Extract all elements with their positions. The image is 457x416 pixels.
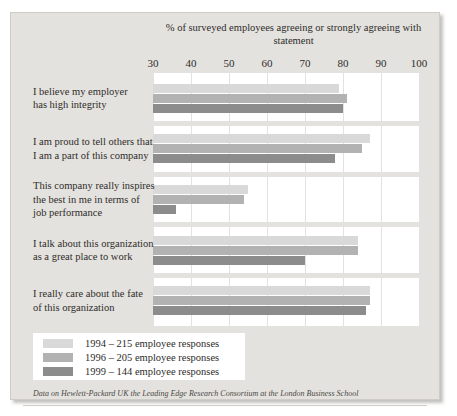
x-tick-label: 50 [224, 57, 235, 69]
category-label-line: as a great place to work [33, 250, 155, 264]
chart-title: % of surveyed employees agreeing or stro… [151, 21, 436, 47]
bar [153, 84, 339, 93]
bar [153, 104, 343, 113]
category-label: I really care about the fateof this orga… [33, 287, 155, 314]
x-tick-label: 100 [411, 57, 428, 69]
bar [153, 185, 248, 194]
category-label: This company really inspiresthe best in … [33, 179, 155, 220]
category-label: I believe my employerhas high integrity [33, 85, 155, 112]
legend-label: 1996 – 205 employee responses [85, 352, 219, 363]
legend-swatch [43, 367, 73, 376]
plot-area [153, 73, 419, 326]
footnote-divider [23, 405, 427, 406]
category-label-line: This company really inspires [33, 179, 155, 193]
x-tick-label: 70 [300, 57, 311, 69]
category-label-line: job performance [33, 206, 155, 220]
group-separator [153, 222, 419, 227]
x-tick-label: 90 [376, 57, 387, 69]
category-label-line: has high integrity [33, 98, 155, 112]
x-tick-label: 40 [186, 57, 197, 69]
category-label-line: of this organization [33, 301, 155, 315]
bar [153, 195, 244, 204]
legend-label: 1999 – 144 employee responses [85, 366, 219, 377]
chart-frame: % of surveyed employees agreeing or stro… [10, 12, 440, 400]
bar [153, 246, 358, 255]
legend-item[interactable]: 1996 – 205 employee responses [33, 351, 245, 364]
x-tick-label: 80 [338, 57, 349, 69]
group-separator [153, 121, 419, 126]
legend-label: 1994 – 215 employee responses [85, 338, 219, 349]
bar [153, 286, 370, 295]
bar [153, 154, 335, 163]
legend-item[interactable]: 1999 – 144 employee responses [33, 365, 245, 378]
category-label-line: I talk about this organization [33, 237, 155, 251]
bar [153, 144, 362, 153]
group-separator [153, 273, 419, 278]
bar [153, 296, 370, 305]
category-label-line: I am a part of this company [33, 149, 155, 163]
bar [153, 205, 176, 214]
category-label-line: the best in me in terms of [33, 193, 155, 207]
category-label: I am proud to tell others thatI am a par… [33, 135, 155, 162]
x-axis-tick-labels: 30405060708090100 [11, 57, 439, 71]
legend-swatch [43, 353, 73, 362]
category-label-line: I really care about the fate [33, 287, 155, 301]
category-label-line: I am proud to tell others that [33, 135, 155, 149]
legend-swatch [43, 339, 73, 348]
gridline [381, 73, 382, 326]
gridline [419, 73, 420, 326]
bar [153, 94, 347, 103]
bar [153, 306, 366, 315]
category-label-line: I believe my employer [33, 85, 155, 99]
category-label: I talk about this organizationas a great… [33, 237, 155, 264]
x-tick-label: 60 [262, 57, 273, 69]
legend-item[interactable]: 1994 – 215 employee responses [33, 337, 245, 350]
chart-legend: 1994 – 215 employee responses1996 – 205 … [33, 333, 245, 380]
bar [153, 134, 370, 143]
group-separator [153, 172, 419, 177]
bar [153, 256, 305, 265]
x-tick-label: 30 [148, 57, 159, 69]
bar [153, 236, 358, 245]
chart-footnote: Data on Hewlett-Packard UK the Leading E… [33, 389, 427, 398]
